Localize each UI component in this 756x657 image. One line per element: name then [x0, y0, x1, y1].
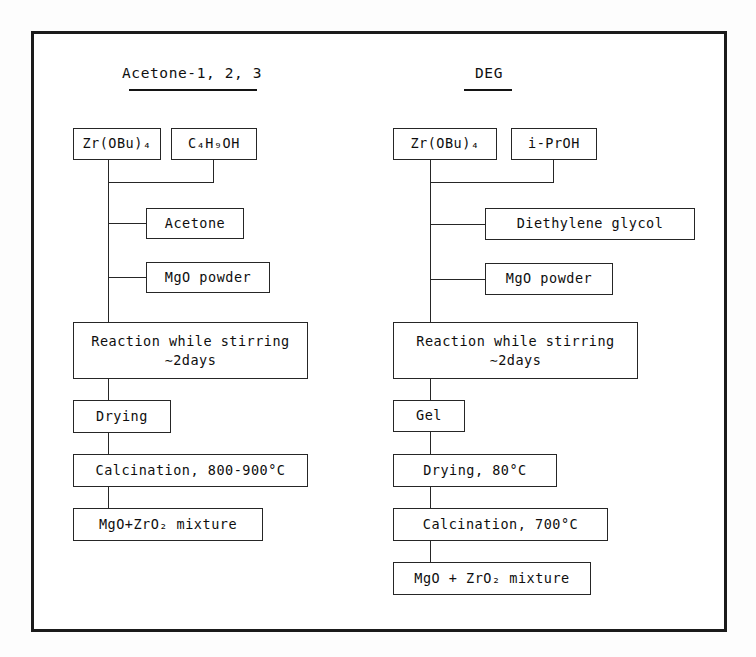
node-deg-solvent: i-PrOH: [511, 128, 597, 160]
connector-deg-additive-mgo-arm: [430, 279, 486, 280]
node-acetone-drying: Drying: [73, 400, 171, 433]
column-heading-deg-underline: [464, 89, 512, 91]
connector-deg-merge-bar: [430, 182, 554, 183]
connector-acetone-calcination-to-product: [108, 487, 109, 508]
connector-acetone-additive-mgo-arm: [108, 277, 147, 278]
connector-acetone-solvent-stem: [213, 160, 214, 183]
node-acetone-solvent: C₄H₉OH: [171, 128, 257, 160]
column-heading-acetone: Acetone-1, 2, 3: [92, 65, 292, 81]
node-deg-drying: Drying, 80°C: [393, 454, 557, 487]
node-acetone-additive-acetone: Acetone: [146, 208, 244, 239]
connector-acetone-merge-bar: [108, 182, 214, 183]
connector-deg-calcination-to-product: [430, 541, 431, 562]
figure-frame: Acetone-1, 2, 3 DEG Zr(OBu)₄ C₄H₉OH Acet…: [31, 31, 727, 632]
column-heading-deg: DEG: [424, 65, 554, 81]
connector-deg-reaction-to-gel: [430, 379, 431, 400]
connector-acetone-additive-acetone-arm: [108, 223, 147, 224]
connector-acetone-drying-to-calcination: [108, 433, 109, 454]
connector-deg-additive-glycol-arm: [430, 224, 486, 225]
node-deg-gel: Gel: [393, 400, 465, 432]
connector-deg-solvent-stem: [553, 160, 554, 183]
connector-acetone-reaction-to-drying: [108, 379, 109, 400]
connector-deg-gel-to-drying: [430, 432, 431, 454]
connector-deg-spine: [430, 182, 431, 334]
node-deg-calcination: Calcination, 700°C: [393, 508, 608, 541]
node-deg-reaction: Reaction while stirring ∼2days: [393, 322, 638, 379]
node-deg-precursor: Zr(OBu)₄: [393, 128, 497, 160]
node-acetone-precursor: Zr(OBu)₄: [73, 128, 161, 160]
node-acetone-product: MgO+ZrO₂ mixture: [73, 508, 263, 541]
connector-acetone-spine: [108, 182, 109, 334]
node-deg-product: MgO + ZrO₂ mixture: [393, 562, 591, 595]
node-deg-additive-glycol: Diethylene glycol: [485, 208, 695, 240]
node-acetone-reaction: Reaction while stirring ∼2days: [73, 322, 308, 379]
node-deg-additive-mgo: MgO powder: [485, 263, 613, 295]
node-acetone-additive-mgo: MgO powder: [146, 262, 270, 293]
connector-deg-drying-to-calcination: [430, 487, 431, 508]
column-heading-acetone-underline: [129, 89, 257, 91]
node-acetone-calcination: Calcination, 800-900°C: [73, 454, 308, 487]
